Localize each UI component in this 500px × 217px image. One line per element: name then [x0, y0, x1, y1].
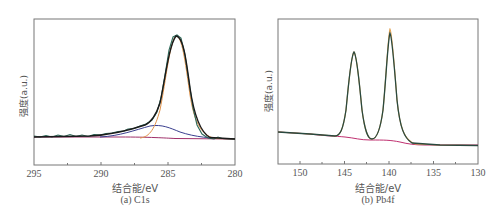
panel-caption: (b) Pb4f [253, 194, 500, 205]
y-axis-label: 强度(a.u.) [17, 75, 30, 117]
raw-spectrum-curve [278, 29, 478, 146]
x-tick-label: 140 [382, 167, 397, 178]
y-axis-label: 强度(a.u.) [262, 70, 275, 112]
x-tick-label: 130 [471, 167, 486, 178]
x-tick-label: 280 [228, 168, 243, 179]
plot-frame [34, 19, 235, 165]
chart-panel-c1s: 295 290 285 280 强度(a.u.) 结合能/eV (a) C1s [0, 0, 250, 217]
plot-frame [278, 19, 478, 164]
fit-envelope-curve [34, 36, 235, 139]
x-tick-label: 145 [337, 167, 352, 178]
component-cc-curve [140, 36, 235, 139]
raw-spectrum-curve [34, 35, 235, 139]
x-tick-label: 135 [426, 167, 441, 178]
x-tick-label: 150 [293, 167, 308, 178]
x-tick-label: 285 [161, 168, 176, 179]
x-tick-label: 290 [94, 168, 109, 179]
x-tick-label: 295 [27, 168, 42, 179]
x-axis-label: 结合能/eV [10, 180, 260, 195]
chart-panel-pb4f: 150 145 140 135 130 强度(a.u.) 结合能/eV (b) … [250, 0, 500, 217]
fit-envelope-curve [278, 33, 478, 146]
x-axis-label: 结合能/eV [253, 180, 500, 195]
panel-caption: (a) C1s [10, 194, 260, 205]
